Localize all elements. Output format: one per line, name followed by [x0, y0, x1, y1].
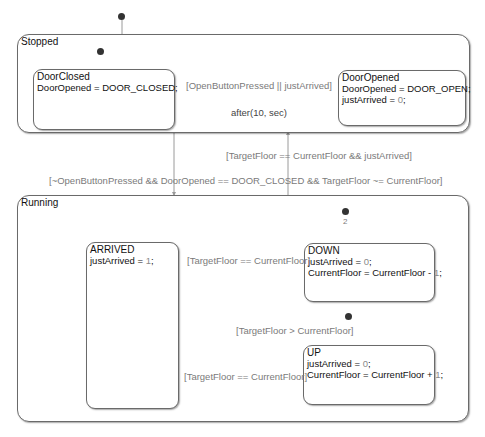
- state-door-closed[interactable]: DoorClosed DoorOpened = DOOR_CLOSED;: [33, 69, 175, 130]
- state-arrived[interactable]: ARRIVED justArrived = 1;: [86, 242, 179, 409]
- state-up-action-1: justArrived = 0;: [307, 358, 371, 369]
- action-suffix: ;: [439, 267, 442, 278]
- action-text: justArrived =: [342, 94, 398, 105]
- state-up-action-2: CurrentFloor = CurrentFloor + 1;: [307, 369, 443, 380]
- state-arrived-action: justArrived = 1;: [90, 255, 154, 266]
- state-door-opened-action-1: DoorOpened = DOOR_OPEN;: [342, 83, 471, 94]
- state-stopped-title: Stopped: [21, 36, 58, 47]
- state-up[interactable]: UP justArrived = 0; CurrentFloor = Curre…: [303, 345, 435, 405]
- state-down[interactable]: DOWN justArrived = 0; CurrentFloor = Cur…: [304, 243, 435, 302]
- transition-label-closed-to-opened[interactable]: [OpenButtonPressed || justArrived]: [186, 80, 332, 91]
- transition-label-opened-to-closed[interactable]: after(10, sec): [231, 107, 287, 118]
- state-running-title: Running: [21, 197, 58, 208]
- state-door-opened[interactable]: DoorOpened DoorOpened = DOOR_OPEN; justA…: [338, 70, 466, 126]
- state-door-opened-title: DoorOpened: [342, 72, 399, 83]
- default-transition-dot-root: [118, 13, 125, 20]
- state-door-closed-action: DoorOpened = DOOR_CLOSED;: [37, 82, 178, 93]
- action-text: CurrentFloor = CurrentFloor +: [307, 369, 435, 380]
- state-up-title: UP: [307, 347, 321, 358]
- state-down-action-1: justArrived = 0;: [308, 256, 372, 267]
- action-text: CurrentFloor = CurrentFloor -: [308, 267, 434, 278]
- action-suffix: ;: [403, 94, 406, 105]
- action-suffix: ;: [151, 255, 154, 266]
- transition-label-down-to-arrived[interactable]: [TargetFloor == CurrentFloor]: [187, 255, 310, 266]
- transition-label-running-to-stopped[interactable]: [TargetFloor == CurrentFloor && justArri…: [226, 150, 412, 161]
- action-suffix: ;: [368, 358, 371, 369]
- default-transition-order-label: 2: [343, 216, 347, 227]
- state-down-action-2: CurrentFloor = CurrentFloor - 1;: [308, 267, 442, 278]
- transition-label-stopped-to-running[interactable]: [~OpenButtonPressed && DoorOpened == DOO…: [49, 175, 442, 186]
- state-arrived-title: ARRIVED: [90, 244, 134, 255]
- state-door-opened-action-2: justArrived = 0;: [342, 94, 406, 105]
- state-down-title: DOWN: [308, 245, 340, 256]
- transition-label-up-to-arrived[interactable]: [TargetFloor == CurrentFloor]: [184, 371, 307, 382]
- default-transition-dot-down: [342, 208, 349, 215]
- action-text: justArrived =: [90, 255, 146, 266]
- default-transition-dot-stopped: [97, 48, 104, 55]
- action-suffix: ;: [369, 256, 372, 267]
- action-text: justArrived =: [307, 358, 363, 369]
- state-door-closed-title: DoorClosed: [37, 71, 90, 82]
- action-suffix: ;: [441, 369, 444, 380]
- action-text: justArrived =: [308, 256, 364, 267]
- transition-label-up-default[interactable]: [TargetFloor > CurrentFloor]: [236, 325, 353, 336]
- default-transition-dot-up: [345, 313, 352, 320]
